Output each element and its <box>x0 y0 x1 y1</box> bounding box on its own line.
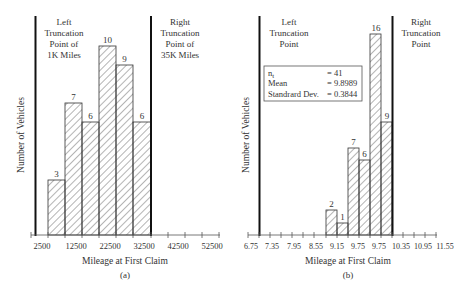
svg-text:35K Miles: 35K Miles <box>161 50 200 60</box>
svg-text:7.35: 7.35 <box>265 242 279 251</box>
svg-text:Point of: Point of <box>50 39 79 49</box>
svg-text:Truncation: Truncation <box>401 28 441 38</box>
bar-label: 6 <box>88 111 93 121</box>
svg-text:Truncation: Truncation <box>160 28 200 38</box>
svg-text:= 41: = 41 <box>327 68 342 78</box>
bar <box>359 160 370 235</box>
bar-label: 6 <box>362 149 367 159</box>
svg-text:52500: 52500 <box>201 241 222 251</box>
bar <box>99 46 116 235</box>
svg-text:Point of: Point of <box>166 39 195 49</box>
svg-text:8.55: 8.55 <box>309 242 323 251</box>
bar <box>65 103 82 235</box>
svg-text:1K Miles: 1K Miles <box>47 50 81 60</box>
bar <box>116 65 133 235</box>
bar-label: 1 <box>340 212 345 222</box>
bar-label: 10 <box>103 35 113 45</box>
figure: Number of Vehicles 3 7 6 10 9 6 Left Tru… <box>0 0 470 296</box>
svg-text:9.75: 9.75 <box>351 242 365 251</box>
svg-text:= 0.3844: = 0.3844 <box>327 89 358 99</box>
svg-text:Point: Point <box>279 39 299 49</box>
svg-text:10.95: 10.95 <box>414 242 432 251</box>
left-truncation-note: Left Truncation Point of 1K Miles <box>44 17 84 60</box>
panel-b-caption: (b) <box>343 270 354 280</box>
svg-text:10.35: 10.35 <box>392 242 410 251</box>
bar <box>370 34 381 235</box>
x-tick-labels: 6.75 7.35 7.95 8.55 9.15 9.75 9.75 10.35… <box>244 242 454 251</box>
svg-text:Standrard Dev.: Standrard Dev. <box>268 89 319 99</box>
bar-label: 7 <box>351 137 356 147</box>
svg-text:Mean: Mean <box>268 78 288 88</box>
bar <box>133 122 151 235</box>
svg-text:Point: Point <box>411 39 431 49</box>
bar <box>381 122 392 235</box>
bar-label: 16 <box>372 23 382 33</box>
svg-text:42500: 42500 <box>167 241 188 251</box>
svg-text:Left: Left <box>57 17 72 27</box>
bar-label: 3 <box>54 169 59 179</box>
panel-a-xlabel: Mileage at First Claim <box>82 256 168 266</box>
panel-a: Number of Vehicles 3 7 6 10 9 6 Left Tru… <box>16 16 223 280</box>
svg-text:Left: Left <box>282 17 297 27</box>
x-tick-labels: 2500 12500 22500 32500 42500 52500 <box>34 241 223 251</box>
svg-text:7.95: 7.95 <box>287 242 301 251</box>
panel-a-caption: (a) <box>120 270 130 280</box>
panel-b-xlabel: Mileage at First Claim <box>305 256 391 266</box>
svg-text:9.75: 9.75 <box>372 242 386 251</box>
bar-label: 9 <box>385 111 390 121</box>
svg-text:2500: 2500 <box>34 241 51 251</box>
svg-text:22500: 22500 <box>99 241 120 251</box>
panel-b-ylabel: Number of Vehicles <box>241 97 251 173</box>
bar <box>82 122 99 235</box>
bar <box>348 148 359 235</box>
bar-label: 2 <box>329 199 334 209</box>
svg-text:9.15: 9.15 <box>330 242 344 251</box>
bar <box>48 180 65 235</box>
panel-b: Number of Vehicles 2 1 7 6 16 9 Left Tru… <box>241 16 454 280</box>
svg-text:12500: 12500 <box>65 241 86 251</box>
bar-label: 7 <box>71 92 76 102</box>
svg-text:Right: Right <box>411 17 432 27</box>
panel-a-ylabel: Number of Vehicles <box>16 97 26 173</box>
panel-a-bars <box>48 46 151 235</box>
svg-text:Truncation: Truncation <box>44 28 84 38</box>
right-truncation-note: Right Truncation Point of 35K Miles <box>160 17 200 60</box>
svg-text:11.55: 11.55 <box>436 242 454 251</box>
svg-text:= 9.8989: = 9.8989 <box>327 78 357 88</box>
stats-box: nt = 41 Mean = 9.8989 Standrard Dev. = 0… <box>264 66 362 101</box>
right-truncation-note: Right Truncation Point <box>401 17 441 49</box>
left-truncation-note: Left Truncation Point <box>269 17 309 49</box>
svg-text:32500: 32500 <box>133 241 154 251</box>
svg-text:6.75: 6.75 <box>244 242 258 251</box>
bar-label: 9 <box>122 54 127 64</box>
bar <box>326 210 337 235</box>
bar-label: 6 <box>140 111 145 121</box>
svg-text:Truncation: Truncation <box>269 28 309 38</box>
bar <box>337 223 348 235</box>
svg-text:Right: Right <box>170 17 191 27</box>
panel-b-bars <box>326 34 392 235</box>
